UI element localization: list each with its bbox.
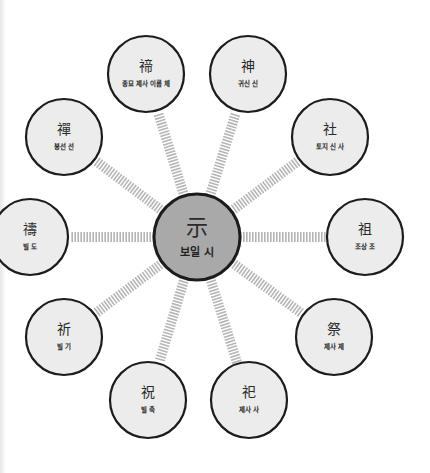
node-circle	[210, 36, 286, 112]
node-hanja: 祈	[57, 321, 71, 337]
node-circle	[110, 362, 186, 438]
node-hanja: 禪	[57, 121, 71, 137]
node-chuk[interactable]: 祝빌 축	[110, 362, 186, 438]
center-hanja: 示	[186, 215, 208, 240]
node-circle	[26, 99, 102, 175]
node-label: 빌 도	[23, 242, 37, 251]
node-sin[interactable]: 神귀신 신	[210, 36, 286, 112]
connector-je	[229, 258, 304, 317]
node-hanja: 禱	[23, 221, 37, 237]
node-jo[interactable]: 祖조상 조	[327, 199, 403, 275]
node-hanja: 神	[241, 58, 255, 74]
node-hanja: 祭	[327, 321, 341, 337]
node-hanja: 社	[323, 121, 337, 137]
node-sa-si[interactable]: 祀제사 사	[211, 362, 287, 438]
node-label: 종묘 제사 이름 체	[122, 79, 171, 88]
connector-chuk	[155, 277, 189, 362]
node-hanja: 祝	[141, 384, 155, 400]
connector-di	[154, 113, 189, 198]
node-circle	[211, 362, 287, 438]
center-node[interactable]: 示 보일 시	[154, 194, 240, 280]
node-gi[interactable]: 祈빌 기	[26, 299, 102, 375]
node-label: 제사 사	[239, 405, 259, 414]
node-hanja: 祖	[358, 221, 372, 237]
node-hanja: 禘	[139, 58, 153, 74]
node-circle	[292, 99, 368, 175]
node-label: 귀신 신	[238, 79, 258, 88]
node-circle	[108, 36, 184, 112]
connector-gi	[94, 259, 166, 317]
connector-do	[71, 232, 154, 242]
connector-sa-si	[205, 276, 241, 363]
radial-concept-diagram: 禘종묘 제사 이름 체神귀신 신社토지 신 사祖조상 조祭제사 제祀제사 사祝빌…	[0, 0, 430, 473]
connector-sa-she	[228, 158, 300, 216]
node-circle	[296, 299, 372, 375]
node-circle	[327, 199, 403, 275]
node-label: 빌 축	[141, 405, 155, 414]
node-hanja: 祀	[242, 384, 256, 400]
center-label: 보일 시	[180, 245, 214, 259]
connector-jo	[240, 232, 326, 242]
node-label: 토지 신 사	[316, 142, 345, 151]
node-seon[interactable]: 禪봉선 선	[26, 99, 102, 175]
node-circle	[26, 299, 102, 375]
node-label: 제사 제	[324, 342, 344, 351]
node-label: 조상 조	[355, 242, 375, 251]
node-di[interactable]: 禘종묘 제사 이름 체	[108, 36, 184, 112]
node-circle	[0, 199, 68, 275]
node-do[interactable]: 禱빌 도	[0, 199, 68, 275]
node-sa-she[interactable]: 社토지 신 사	[292, 99, 368, 175]
connector-sin	[205, 113, 240, 198]
node-label: 봉선 선	[54, 142, 74, 151]
node-je[interactable]: 祭제사 제	[296, 299, 372, 375]
node-label: 빌 기	[57, 342, 71, 351]
connector-seon	[94, 158, 166, 216]
